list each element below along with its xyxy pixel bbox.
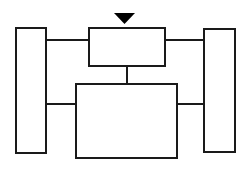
top-center-block-shape[interactable]: [89, 28, 165, 66]
left-vertical-block-shape[interactable]: [16, 28, 46, 153]
bottom-center-block[interactable]: [76, 84, 177, 158]
right-vertical-block-shape[interactable]: [204, 29, 235, 152]
right-vertical-block[interactable]: [204, 29, 235, 152]
diagram-canvas: [0, 0, 250, 173]
node-layer: [16, 28, 235, 158]
marker-layer: [114, 13, 135, 24]
down-triangle-marker-icon: [114, 13, 135, 24]
top-center-block[interactable]: [89, 28, 165, 66]
bottom-center-block-shape[interactable]: [76, 84, 177, 158]
diagram-svg: [0, 0, 250, 173]
left-vertical-block[interactable]: [16, 28, 46, 153]
